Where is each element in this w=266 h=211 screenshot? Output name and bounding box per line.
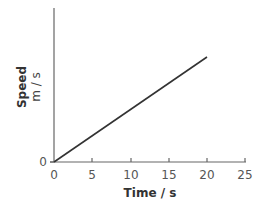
y-axis-unit: m / s: [29, 72, 43, 102]
x-tick-label-25: 25: [237, 168, 252, 182]
x-tick-label-5: 5: [88, 168, 96, 182]
x-axis-label: Time / s: [124, 186, 177, 200]
y-tick-label-0: 0: [39, 155, 47, 169]
x-tick-label-10: 10: [123, 168, 138, 182]
speed-time-chart: 0 0 5 10 15 20 25 Time / s Speed m / s: [0, 0, 266, 211]
x-tick-label-15: 15: [161, 168, 176, 182]
speed-line: [54, 57, 207, 162]
x-tick-label-20: 20: [199, 168, 214, 182]
y-axis-label: Speed: [15, 66, 29, 108]
x-tick-label-0: 0: [50, 168, 58, 182]
